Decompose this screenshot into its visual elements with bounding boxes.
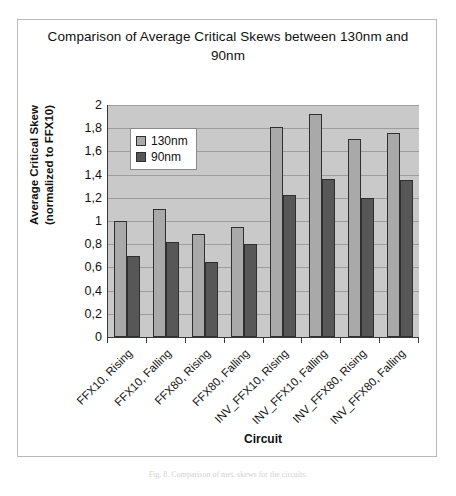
x-axis-tick-mark <box>263 338 264 343</box>
bar-90nm-ffx80-rising <box>205 262 218 337</box>
x-axis-tick-mark <box>418 338 419 343</box>
legend-swatch-icon <box>136 152 146 162</box>
bar-group <box>264 105 303 337</box>
bar-group <box>225 105 264 337</box>
legend-label: 130nm <box>151 134 188 148</box>
legend-swatch-icon <box>136 136 146 146</box>
bar-group <box>341 105 380 337</box>
bar-130nm-ffx80-rising <box>192 234 205 337</box>
x-axis-tick-mark <box>185 338 186 343</box>
bar-130nm-ffx10-falling <box>153 209 166 337</box>
bar-90nm-inv_ffx10-rising <box>283 195 296 337</box>
chart-legend: 130nm90nm <box>130 128 197 170</box>
y-axis-tick-label: 2 <box>60 98 102 112</box>
y-axis-tick-label: 1,8 <box>60 121 102 135</box>
bar-130nm-inv_ffx80-rising <box>348 139 361 337</box>
x-axis-tick-mark <box>340 338 341 343</box>
legend-label: 90nm <box>151 150 181 164</box>
y-axis-tick-label: 1,2 <box>60 191 102 205</box>
y-axis-title-line-2: (normalized to FFX10) <box>42 70 57 260</box>
bar-130nm-inv_ffx80-falling <box>387 133 400 337</box>
y-axis-tick-label: 1 <box>60 214 102 228</box>
bar-130nm-inv_ffx10-falling <box>309 114 322 337</box>
bar-90nm-inv_ffx80-rising <box>361 198 374 337</box>
y-axis-tick-label: 0,4 <box>60 284 102 298</box>
x-axis-tick-mark <box>146 338 147 343</box>
bar-90nm-ffx10-falling <box>166 242 179 337</box>
x-axis-tick-mark <box>107 338 108 343</box>
x-axis-tick-mark <box>224 338 225 343</box>
x-axis-tick-mark <box>301 338 302 343</box>
y-axis-tick-label: 0,8 <box>60 237 102 251</box>
legend-item: 90nm <box>136 149 188 165</box>
bar-90nm-inv_ffx80-falling <box>400 180 413 337</box>
y-axis-tick-labels: 21,81,61,41,210,80,60,40,20 <box>60 97 102 345</box>
y-axis-tick-label: 1,6 <box>60 144 102 158</box>
y-axis-tick-label: 0 <box>60 330 102 344</box>
legend-item: 130nm <box>136 133 188 149</box>
y-axis-tick-label: 1,4 <box>60 168 102 182</box>
bar-130nm-ffx80-falling <box>231 227 244 337</box>
x-axis-title: Circuit <box>107 432 419 446</box>
bar-90nm-ffx10-rising <box>127 256 140 337</box>
chart-title: Comparison of Average Critical Skews bet… <box>34 27 422 65</box>
bar-group <box>380 105 419 337</box>
x-axis-tick-mark <box>379 338 380 343</box>
bar-90nm-ffx80-falling <box>244 244 257 337</box>
y-axis-title-line-1: Average Critical Skew <box>27 70 42 260</box>
x-axis-tick-labels: FFX10, RisingFFX10, FallingFFX80, Rising… <box>107 344 419 430</box>
figure-caption: Fig. 8. Comparison of met. skews for the… <box>0 470 456 479</box>
y-axis-title: Average Critical Skew (normalized to FFX… <box>27 70 57 260</box>
y-axis-tick-label: 0,6 <box>60 260 102 274</box>
y-axis-tick-label: 0,2 <box>60 307 102 321</box>
bar-130nm-inv_ffx10-rising <box>270 127 283 337</box>
bar-90nm-inv_ffx10-falling <box>322 179 335 337</box>
bar-group <box>302 105 341 337</box>
bar-130nm-ffx10-rising <box>114 221 127 337</box>
